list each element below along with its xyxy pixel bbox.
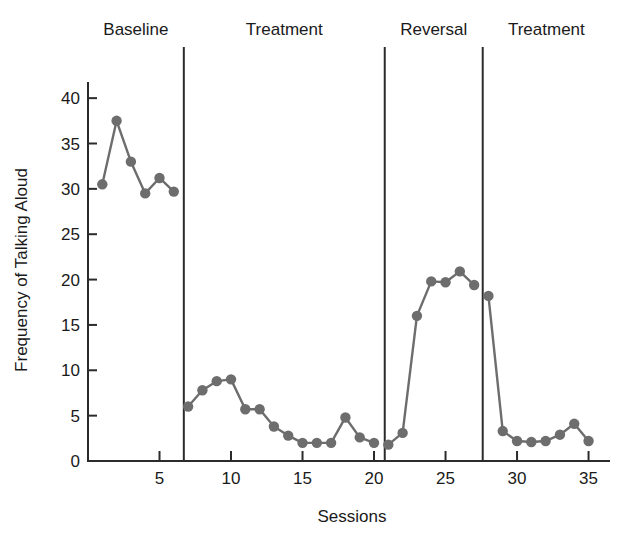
data-point <box>340 412 350 422</box>
data-point <box>583 436 593 446</box>
data-point <box>140 188 150 198</box>
phase-label-treatment2: Treatment <box>508 20 585 39</box>
x-tick-label-25: 25 <box>436 469 455 488</box>
phase-divider-lines-group <box>184 47 483 461</box>
data-point <box>111 116 121 126</box>
y-tick-label-30: 30 <box>61 180 80 199</box>
y-tick-label-20: 20 <box>61 271 80 290</box>
data-point <box>226 374 236 384</box>
data-point <box>483 291 493 301</box>
data-point <box>212 376 222 386</box>
phase-label-baseline: Baseline <box>103 20 168 39</box>
phase-label-treatment1: Treatment <box>246 20 323 39</box>
data-point <box>369 438 379 448</box>
data-point <box>269 421 279 431</box>
x-tick-label-10: 10 <box>222 469 241 488</box>
data-point <box>455 266 465 276</box>
data-point <box>197 385 207 395</box>
data-point <box>326 438 336 448</box>
y-tick-label-15: 15 <box>61 316 80 335</box>
phase-labels-group: BaselineTreatmentReversalTreatment <box>103 20 585 39</box>
y-axis-tick-labels-group: 0510152025303540 <box>61 89 80 471</box>
y-axis-title: Frequency of Talking Aloud <box>12 168 31 372</box>
x-tick-label-15: 15 <box>293 469 312 488</box>
y-tick-label-40: 40 <box>61 89 80 108</box>
abab-reversal-design-line-chart: BaselineTreatmentReversalTreatment 05101… <box>0 0 624 535</box>
phase-label-reversal: Reversal <box>400 20 467 39</box>
x-tick-label-5: 5 <box>155 469 164 488</box>
data-point <box>469 280 479 290</box>
data-point <box>498 426 508 436</box>
series-line-segment <box>388 271 474 444</box>
x-axis-ticks-group <box>160 451 589 461</box>
data-series-lines-group <box>102 121 588 445</box>
data-point <box>240 404 250 414</box>
data-point <box>569 419 579 429</box>
axis-lines <box>88 82 610 461</box>
data-point <box>526 437 536 447</box>
y-axis-ticks-group <box>88 98 97 461</box>
data-point <box>412 311 422 321</box>
data-series-points-group <box>97 116 594 450</box>
data-point <box>540 436 550 446</box>
chart-container: BaselineTreatmentReversalTreatment 05101… <box>0 0 624 535</box>
data-point <box>383 439 393 449</box>
data-point <box>312 438 322 448</box>
data-point <box>440 277 450 287</box>
data-point <box>355 432 365 442</box>
y-tick-label-25: 25 <box>61 225 80 244</box>
y-tick-label-5: 5 <box>71 407 80 426</box>
y-tick-label-10: 10 <box>61 361 80 380</box>
data-point <box>254 404 264 414</box>
x-tick-label-20: 20 <box>365 469 384 488</box>
data-point <box>512 436 522 446</box>
data-point <box>426 276 436 286</box>
data-point <box>97 179 107 189</box>
data-point <box>126 156 136 166</box>
data-point <box>297 438 307 448</box>
data-point <box>169 186 179 196</box>
data-point <box>283 430 293 440</box>
axes-group <box>88 82 610 461</box>
series-line-segment <box>188 379 374 443</box>
x-tick-label-35: 35 <box>579 469 598 488</box>
data-point <box>555 429 565 439</box>
y-tick-label-35: 35 <box>61 135 80 154</box>
x-axis-tick-labels-group: 5101520253035 <box>155 469 598 488</box>
x-tick-label-30: 30 <box>508 469 527 488</box>
series-line-segment <box>102 121 174 194</box>
y-tick-label-0: 0 <box>71 452 80 471</box>
data-point <box>183 401 193 411</box>
data-point <box>397 428 407 438</box>
x-axis-title: Sessions <box>318 507 387 526</box>
data-point <box>154 173 164 183</box>
